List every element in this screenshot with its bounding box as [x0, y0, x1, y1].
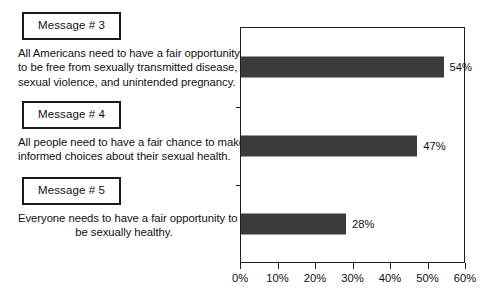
- bar-message-5: [241, 214, 346, 235]
- x-axis-tick: [240, 263, 241, 269]
- x-axis-tick-label: 40%: [379, 272, 401, 285]
- bar-row: 28%: [241, 185, 464, 264]
- bar-row: 54%: [241, 28, 464, 107]
- x-axis-tick: [390, 263, 391, 269]
- x-axis-tick: [353, 263, 354, 269]
- x-axis-tick-label: 60%: [454, 272, 476, 285]
- bar-row: 47%: [241, 107, 464, 186]
- message-body-line: to be free from sexually transmitted dis…: [18, 60, 230, 74]
- x-axis-tick-label: 10%: [266, 272, 288, 285]
- message-label-box: Message # 4: [22, 101, 121, 129]
- plot-area: 54% 47% 28%: [240, 27, 465, 263]
- bar-message-3: [241, 57, 444, 78]
- x-axis-tick-label: 20%: [304, 272, 326, 285]
- message-block: Message # 4 All people need to have a fa…: [0, 101, 236, 164]
- message-body-line: All Americans need to have a fair opport…: [18, 46, 230, 60]
- message-body-line: be sexually healthy.: [18, 225, 230, 239]
- message-block: Message # 3 All Americans need to have a…: [0, 12, 236, 89]
- messages-panel: Message # 3 All Americans need to have a…: [0, 0, 236, 296]
- x-axis-tick-label: 50%: [416, 272, 438, 285]
- bar-message-4: [241, 135, 417, 156]
- x-axis-tick-label: 0%: [232, 272, 248, 285]
- message-body-line: sexual violence, and unintended pregnanc…: [18, 75, 230, 89]
- message-body: All people need to have a fair chance to…: [0, 135, 236, 164]
- bar-chart: 54% 47% 28% 0%10%20%30%40%50%60%: [236, 0, 480, 296]
- x-axis-tick: [278, 263, 279, 269]
- message-label-box: Message # 3: [22, 12, 121, 40]
- message-body-line: informed choices about their sexual heal…: [18, 149, 230, 163]
- figure-root: Message # 3 All Americans need to have a…: [0, 0, 480, 296]
- x-axis-tick: [315, 263, 316, 269]
- x-axis-tick: [428, 263, 429, 269]
- bar-value-label: 47%: [423, 139, 445, 152]
- x-axis-tick-label: 30%: [341, 272, 363, 285]
- y-axis-tick: [236, 107, 241, 108]
- message-body-line: All people need to have a fair chance to…: [18, 135, 230, 149]
- message-body: All Americans need to have a fair opport…: [0, 46, 236, 89]
- x-axis-tick: [465, 263, 466, 269]
- bar-value-label: 28%: [352, 218, 374, 231]
- message-body: Everyone needs to have a fair opportunit…: [0, 211, 236, 240]
- y-axis-tick: [236, 185, 241, 186]
- bar-value-label: 54%: [450, 61, 472, 74]
- message-label-box: Message # 5: [22, 177, 121, 205]
- message-block: Message # 5 Everyone needs to have a fai…: [0, 177, 236, 240]
- message-body-line: Everyone needs to have a fair opportunit…: [18, 211, 230, 225]
